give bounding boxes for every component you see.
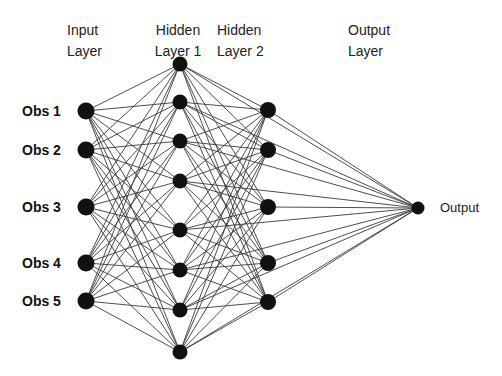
node-input-5 (78, 293, 95, 310)
input-label-obs-2: Obs 2 (22, 142, 61, 158)
edge-hidden1-3-to-hidden2-4 (180, 141, 268, 263)
edge-hidden1-2-to-output-1 (180, 102, 418, 208)
edge-hidden1-6-to-output-1 (180, 208, 418, 270)
edge-input-2-to-hidden1-5 (86, 150, 180, 230)
hidden-layer-2-title-line1: Hidden (217, 20, 264, 41)
edge-hidden1-6-to-hidden2-1 (180, 110, 268, 270)
node-input-4 (78, 255, 95, 272)
input-layer-title-line1: Input (67, 20, 102, 41)
node-hidden1-4 (173, 174, 188, 189)
output-label: Output (440, 200, 479, 215)
input-layer-title: Input Layer (67, 20, 102, 62)
hidden-layer-1-title-line1: Hidden (143, 20, 213, 41)
hidden-layer-1-title: Hidden Layer 1 (143, 20, 213, 62)
node-hidden1-2 (173, 95, 188, 110)
edge-hidden1-1-to-hidden2-4 (180, 64, 268, 263)
edge-input-4-to-hidden1-1 (86, 64, 180, 263)
output-layer-title-line1: Output (348, 20, 390, 41)
edge-input-1-to-hidden1-1 (86, 64, 180, 111)
edge-input-5-to-hidden1-3 (86, 141, 180, 301)
input-label-obs-5: Obs 5 (22, 293, 61, 309)
input-layer-title-line2: Layer (67, 41, 102, 62)
edge-hidden2-3-to-output-1 (268, 207, 418, 208)
edge-hidden1-8-to-hidden2-1 (180, 110, 268, 352)
node-output-1 (412, 202, 425, 215)
node-hidden2-5 (260, 294, 276, 310)
hidden-layer-2-title: Hidden Layer 2 (217, 20, 264, 62)
node-hidden2-4 (260, 255, 276, 271)
node-input-1 (78, 103, 95, 120)
edge-input-2-to-hidden1-1 (86, 64, 180, 150)
node-hidden1-3 (173, 134, 188, 149)
node-hidden1-7 (173, 303, 188, 318)
node-input-3 (78, 199, 95, 216)
edge-hidden1-1-to-output-1 (180, 64, 418, 208)
node-hidden1-6 (173, 263, 188, 278)
hidden-layer-2-title-line2: Layer 2 (217, 41, 264, 62)
edge-input-5-to-hidden1-2 (86, 102, 180, 301)
output-layer-title: Output Layer (348, 20, 390, 62)
input-label-obs-3: Obs 3 (22, 199, 61, 215)
edge-input-1-to-hidden1-8 (86, 111, 180, 352)
node-hidden2-2 (260, 142, 276, 158)
edge-hidden1-1-to-hidden2-2 (180, 64, 268, 150)
node-hidden1-8 (173, 345, 188, 360)
node-input-2 (78, 142, 95, 159)
node-hidden2-1 (260, 102, 276, 118)
node-hidden1-5 (173, 223, 188, 238)
edge-hidden1-5-to-output-1 (180, 208, 418, 230)
connections (86, 64, 418, 352)
edge-hidden1-4-to-hidden2-5 (180, 181, 268, 302)
hidden-layer-1-title-line2: Layer 1 (143, 41, 213, 62)
output-layer-title-line2: Layer (348, 41, 390, 62)
node-hidden2-3 (260, 199, 276, 215)
input-label-obs-4: Obs 4 (22, 255, 61, 271)
edge-hidden1-8-to-hidden2-4 (180, 263, 268, 352)
input-label-obs-1: Obs 1 (22, 103, 61, 119)
